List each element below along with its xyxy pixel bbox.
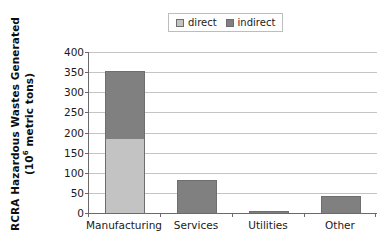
bar-segment-direct[interactable] — [105, 139, 145, 213]
x-axis-tick — [304, 213, 305, 217]
bar-group[interactable] — [105, 71, 145, 213]
legend-swatch-direct-icon — [176, 19, 184, 27]
y-axis-title-exponent: 6 — [22, 150, 30, 155]
y-axis-tick-label: 0 — [50, 208, 84, 219]
x-axis-tick — [375, 213, 376, 217]
y-axis-tick-label: 50 — [50, 188, 84, 199]
bar-segment-indirect[interactable] — [105, 71, 145, 138]
bar-group[interactable] — [321, 196, 361, 213]
legend-label-indirect: indirect — [238, 18, 276, 28]
legend-swatch-indirect-icon — [226, 19, 234, 27]
x-axis-tick-label: Services — [174, 220, 218, 231]
y-axis-tick — [85, 133, 89, 134]
bar-segment-indirect[interactable] — [177, 180, 217, 213]
x-axis-tick — [88, 213, 89, 217]
legend-entry-indirect[interactable]: indirect — [226, 18, 276, 28]
legend-label-direct: direct — [188, 18, 217, 28]
y-axis-title-line1: RCRA Hazardous Wastes Generated — [9, 17, 22, 231]
bar-chart: direct indirect RCRA Hazardous Wastes Ge… — [0, 0, 390, 248]
y-axis-tick — [85, 173, 89, 174]
x-axis-tick-label: Manufacturing — [86, 220, 162, 231]
y-axis-tick-label: 350 — [50, 67, 84, 78]
y-axis-tick — [85, 193, 89, 194]
x-axis-tick — [232, 213, 233, 217]
x-axis-tick — [160, 213, 161, 217]
y-axis-tick — [85, 72, 89, 73]
y-axis-tick-label: 300 — [50, 87, 84, 98]
plot-area — [88, 52, 377, 213]
y-axis-title-line2-prefix: (10 — [22, 155, 34, 175]
y-axis-tick — [85, 52, 89, 53]
x-axis-tick-label: Other — [325, 220, 355, 231]
x-axis-ticks — [88, 213, 376, 218]
legend-entry-direct[interactable]: direct — [176, 18, 217, 28]
chart-legend: direct indirect — [168, 13, 283, 32]
bar-segment-indirect[interactable] — [321, 196, 361, 213]
y-axis-title-line2-suffix: metric tons) — [22, 73, 34, 150]
y-axis-title-line2: (106 metric tons) — [22, 73, 35, 175]
y-axis-tick-label: 150 — [50, 147, 84, 158]
y-axis-tick-label: 250 — [50, 107, 84, 118]
x-axis-tick-labels: ManufacturingServicesUtilitiesOther — [88, 220, 376, 238]
gridline — [89, 52, 377, 53]
y-axis-tick-labels: 400350300250200150100500 — [48, 52, 84, 213]
x-axis-tick-label: Utilities — [248, 220, 288, 231]
bar-group[interactable] — [177, 180, 217, 213]
y-axis-title: RCRA Hazardous Wastes Generated (106 met… — [0, 0, 44, 248]
y-axis-tick-label: 200 — [50, 127, 84, 138]
y-axis-tick-label: 100 — [50, 168, 84, 179]
y-axis-tick — [85, 112, 89, 113]
y-axis-tick — [85, 92, 89, 93]
y-axis-tick — [85, 153, 89, 154]
y-axis-tick-label: 400 — [50, 47, 84, 58]
